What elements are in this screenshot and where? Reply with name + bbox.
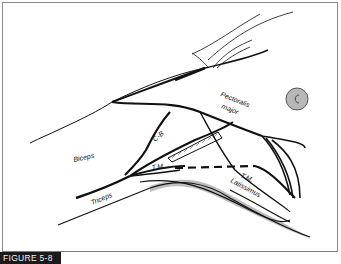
anatomy-diagram: Pectoralis major Biceps Triceps C-B T.M.…: [0, 0, 341, 252]
deltoid-fibers: [213, 40, 252, 68]
deltopectoral-line: [192, 53, 209, 68]
label-teres-major-left: T.M.: [151, 162, 165, 171]
nipple-icon: [286, 88, 308, 110]
label-coracobrachialis: C-B: [151, 129, 165, 142]
shoulder-line: [205, 50, 268, 68]
figure-caption: FIGURE 5-8: [0, 252, 61, 264]
cb-right-line: [200, 112, 290, 212]
pectoral-lower-border: [112, 102, 262, 136]
tm-right-fan-1: [262, 136, 290, 195]
biceps-left-short: [30, 130, 58, 143]
label-biceps: Biceps: [73, 152, 96, 164]
label-major: major: [220, 102, 240, 116]
clavicle-lines: [192, 14, 260, 54]
dashed-nerve-line: [175, 166, 255, 168]
